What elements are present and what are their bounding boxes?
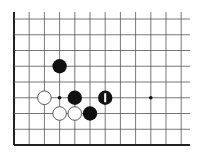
- board-grid: [14, 12, 190, 145]
- white-stone[interactable]: [68, 107, 82, 121]
- white-stone-icon: [38, 91, 52, 105]
- white-stone[interactable]: [38, 91, 52, 105]
- star-point: [58, 96, 62, 100]
- white-stone-icon: [68, 107, 82, 121]
- white-stone[interactable]: [53, 107, 67, 121]
- black-stone-icon: [52, 59, 66, 73]
- go-board[interactable]: [0, 0, 200, 160]
- black-stone[interactable]: [98, 91, 112, 105]
- star-point: [149, 96, 153, 100]
- last-move-marker-icon: [104, 93, 106, 102]
- black-stone-icon: [68, 91, 82, 105]
- white-stone-icon: [53, 107, 67, 121]
- black-stone[interactable]: [68, 91, 82, 105]
- black-stone[interactable]: [52, 59, 66, 73]
- black-stone[interactable]: [83, 106, 97, 120]
- black-stone-icon: [83, 106, 97, 120]
